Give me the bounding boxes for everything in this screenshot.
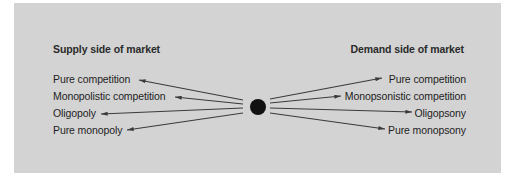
arrow-supply-pure-competition [139,80,243,100]
arrow-supply-pure-monopoly [127,113,243,130]
arrow-demand-pure-competition [270,78,382,99]
market-center-dot [250,99,266,115]
arrow-demand-pure-monopsony [270,113,385,129]
arrow-supply-oligopoly [101,108,243,114]
arrow-demand-oligopsony [270,108,412,112]
arrow-diagram [0,0,523,181]
